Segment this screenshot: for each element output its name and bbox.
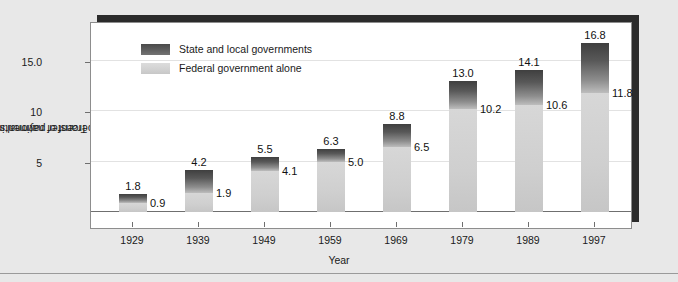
x-axis-tick-mark [330,222,331,227]
x-axis-line [91,211,631,212]
chart-figure: Transfer payments as a percent of nation… [0,0,678,282]
bar-label-federal: 1.9 [216,187,231,199]
bar [251,157,279,212]
bar-label-federal: 11.8 [612,87,633,99]
bar-segment-state-local [515,70,543,105]
legend-swatch-federal [141,63,170,74]
y-axis-tick-label: 15.0 [22,56,42,68]
legend-item-federal: Federal government alone [141,60,312,76]
x-axis-tick-mark [462,222,463,227]
y-axis-tick-label: 10 [30,106,42,118]
bar-label-total: 4.2 [191,156,206,168]
bar-segment-state-local [317,149,345,162]
bar-label-federal: 10.2 [480,103,501,115]
bar [449,81,477,212]
bar-label-total: 16.8 [584,29,605,41]
x-axis-tick-label: 1969 [384,234,407,246]
bar [119,194,147,212]
footer-rule [0,273,678,274]
x-axis-tick-mark [264,222,265,227]
y-axis-tick-mark [85,163,90,164]
bar-label-total: 5.5 [257,143,272,155]
bar-label-federal: 4.1 [282,165,297,177]
x-axis-tick-label: 1959 [318,234,341,246]
bar-segment-state-local [185,170,213,193]
bar-label-federal: 5.0 [348,156,363,168]
bar-segment-federal [383,147,411,212]
bar [185,170,213,212]
bar-segment-federal [185,193,213,212]
x-axis-tick-mark [528,222,529,227]
bar-segment-federal [119,203,147,212]
legend-label-state-local: State and local governments [179,43,312,55]
bar-label-federal: 0.9 [150,197,165,209]
bar-label-federal: 6.5 [414,141,429,153]
bar-segment-federal [251,171,279,212]
x-axis-tick-label: 1979 [450,234,473,246]
bar-segment-federal [515,105,543,212]
bar-segment-federal [449,109,477,212]
bar-label-federal: 10.6 [546,99,567,111]
bar [515,70,543,212]
bar-label-total: 8.8 [389,110,404,122]
bar [383,124,411,212]
x-axis-tick-label: 1939 [186,234,209,246]
y-axis-tick-mark [85,112,90,113]
x-axis-title: Year [0,254,678,266]
legend-label-federal: Federal government alone [179,62,302,74]
bar-segment-state-local [251,157,279,171]
bar-label-total: 1.8 [125,180,140,192]
x-axis-tick-mark [594,222,595,227]
bar [317,149,345,212]
bar-segment-state-local [581,43,609,93]
bar-label-total: 14.1 [518,56,539,68]
bar-label-total: 6.3 [323,135,338,147]
chart-legend: State and local governments Federal gove… [141,41,312,79]
bar-segment-federal [581,93,609,212]
bar-segment-federal [317,162,345,212]
legend-swatch-state-local [141,44,170,55]
x-axis-tick-mark [198,222,199,227]
x-axis-tick-label: 1989 [516,234,539,246]
y-axis-tick-mark [85,62,90,63]
x-axis-tick-mark [396,222,397,227]
plot-panel: 1.80.94.21.95.54.16.35.08.86.513.010.214… [90,22,632,229]
y-axis-tick-label: 5 [36,157,42,169]
bar [581,43,609,212]
x-axis-tick-mark [132,222,133,227]
x-axis-tick-label: 1929 [120,234,143,246]
bar-segment-state-local [383,124,411,147]
bar-segment-state-local [449,81,477,109]
x-axis-tick-label: 1997 [582,234,605,246]
bar-label-total: 13.0 [452,67,473,79]
legend-item-state-local: State and local governments [141,41,312,57]
x-axis-tick-label: 1949 [252,234,275,246]
bar-segment-state-local [119,194,147,203]
